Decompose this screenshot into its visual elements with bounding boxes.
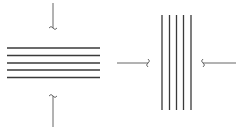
bottom-arrow-icon [49,95,57,128]
left-arrow-icon [117,59,150,67]
right-arrow-icon [202,59,237,67]
layered-structure-diagram [0,0,237,130]
vertical-layer-stack [162,15,191,110]
vertical-squiggle-arrows [49,3,57,127]
top-arrow-icon [49,3,57,30]
horizontal-layer-stack [7,48,100,78]
diagram-svg [0,0,237,130]
